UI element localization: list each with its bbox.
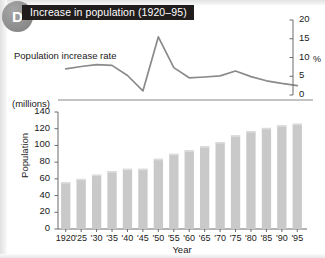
bar <box>138 169 147 229</box>
y-axis-tick: 40 <box>24 189 50 200</box>
bar <box>61 182 70 229</box>
right-axis-tick: 0 <box>299 88 304 99</box>
right-axis-tick: 20 <box>299 13 310 24</box>
bar <box>277 125 286 229</box>
right-axis-tick: 10 <box>299 51 310 62</box>
bars-group <box>61 124 302 229</box>
bar <box>293 124 302 229</box>
right-axis-tick: 15 <box>299 32 310 43</box>
y-axis-tick: 120 <box>24 122 50 133</box>
bar <box>185 150 194 229</box>
y-axis-tick: 20 <box>24 205 50 216</box>
bar <box>200 146 209 229</box>
bar <box>123 169 132 229</box>
bar <box>231 135 240 229</box>
x-axis-tick: '95 <box>282 233 312 243</box>
figure-panel: D Increase in population (1920–95) Popul… <box>0 0 325 258</box>
y-axis-tick: 100 <box>24 138 50 149</box>
y-axis-tick: 60 <box>24 172 50 183</box>
bar <box>107 171 116 229</box>
bar <box>262 128 271 229</box>
bar <box>154 159 163 229</box>
y-axis-tick: 0 <box>24 222 50 233</box>
bar <box>246 131 255 229</box>
bar <box>169 154 178 229</box>
bar <box>216 142 225 229</box>
y-axis-tick: 80 <box>24 155 50 166</box>
bar <box>92 175 101 229</box>
y-axis-tick: 140 <box>24 105 50 116</box>
right-axis-tick: 5 <box>299 69 304 80</box>
bar <box>77 179 86 229</box>
